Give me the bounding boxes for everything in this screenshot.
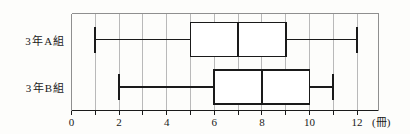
x-tick-label-12: 12 [352,116,363,128]
box-plot-canvas [0,0,410,134]
x-tick-label-4: 4 [164,116,170,128]
x-axis-unit-label: (冊) [372,113,390,129]
x-tick-label-2: 2 [116,116,122,128]
category-label-a: 3年A組 [25,32,65,48]
x-tick-label-8: 8 [259,116,265,128]
x-tick-label-6: 6 [212,116,218,128]
box-plot-figure: 3年A組3年B組 024681012 (冊) [0,0,410,134]
x-tick-label-0: 0 [69,116,75,128]
x-tick-label-10: 10 [304,116,315,128]
category-label-b: 3年B組 [26,79,66,95]
